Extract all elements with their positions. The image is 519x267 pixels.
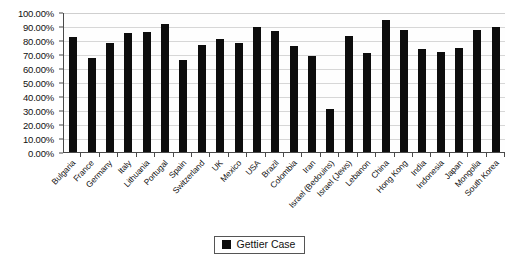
y-axis-tick-label: 40.00% [23,93,54,102]
y-axis: 100.00%90.00%80.00%70.00%60.00%50.00%40.… [0,13,60,153]
bar [290,46,298,152]
bar-slot [487,13,505,152]
x-label-slot: South Korea [487,156,505,232]
bar-slot [229,13,247,152]
legend: Gettier Case [0,236,519,254]
legend-label: Gettier Case [237,239,296,250]
bar-slot [285,13,303,152]
bar [437,52,445,152]
y-axis-tick-label: 20.00% [23,121,54,130]
bar-slot [450,13,468,152]
bar [179,60,187,152]
bar [235,43,243,152]
plot-frame [63,13,505,153]
bar [161,24,169,152]
bar [124,33,132,152]
bar-slot [468,13,486,152]
bar [382,20,390,152]
bar [308,56,316,152]
bar-slot [211,13,229,152]
bar [69,37,77,152]
x-axis-labels: BulgariaFranceGermanyItalyLithuaniaPortu… [63,156,505,232]
bar [418,49,426,152]
bar [473,30,481,152]
y-axis-tick-label: 30.00% [23,107,54,116]
y-axis-tick-label: 10.00% [23,135,54,144]
bar-slot [248,13,266,152]
bar [198,45,206,152]
bar-slot [193,13,211,152]
x-label-slot: Switzerland [192,156,210,232]
bar [143,32,151,152]
bar-slot [101,13,119,152]
bar [106,43,114,152]
bar [88,58,96,153]
legend-box: Gettier Case [214,236,306,254]
bar-slot [82,13,100,152]
bar [455,48,463,152]
bar-slot [156,13,174,152]
bar-slot [321,13,339,152]
bar [345,36,353,152]
bar-slot [432,13,450,152]
bar [326,109,334,152]
y-axis-tick-label: 80.00% [23,37,54,46]
bar-slot [64,13,82,152]
y-axis-tick-label: 50.00% [23,79,54,88]
y-axis-tick-label: 70.00% [23,51,54,60]
bar-series-gettier-case [64,13,505,152]
plot-area [63,13,505,153]
bar-slot [358,13,376,152]
y-axis-tick-label: 60.00% [23,65,54,74]
bar [492,27,500,152]
bar-slot [174,13,192,152]
bar [271,31,279,152]
bar-slot [413,13,431,152]
y-axis-tick-label: 90.00% [23,23,54,32]
bar-slot [340,13,358,152]
bar-slot [303,13,321,152]
bar-slot [395,13,413,152]
bar [400,30,408,152]
bar-slot [119,13,137,152]
bar-slot [266,13,284,152]
bar [253,27,261,152]
legend-swatch-icon [222,240,231,249]
y-axis-tick-label: 0.00% [28,149,54,158]
bar-slot [138,13,156,152]
bar [216,39,224,152]
y-axis-tick-label: 100.00% [18,9,54,18]
bar-slot [376,13,394,152]
bar [363,53,371,152]
bar-chart: 100.00%90.00%80.00%70.00%60.00%50.00%40.… [0,0,519,267]
